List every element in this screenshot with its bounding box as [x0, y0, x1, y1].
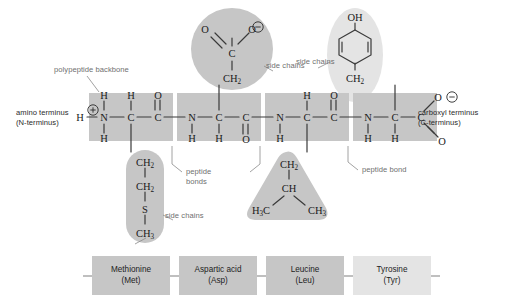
carboxyl-terminus-label-line1: carboxyl terminus [418, 108, 478, 117]
met-sulfur: S [142, 204, 148, 215]
residue-1-n-h-top: H [100, 90, 108, 101]
peptide-bonds-label-line2: bonds [186, 177, 207, 186]
residue-4-alpha-h: H [391, 133, 399, 144]
residue-2-n-h-bottom: H [188, 133, 196, 144]
residue-1-n-atom: N [100, 112, 108, 123]
asp-carboxyl-c: C [228, 48, 235, 59]
amino-terminus-label-line2: (N-terminus) [16, 118, 59, 127]
residue-4-n-h-bottom: H [364, 133, 372, 144]
residue-label-box-methionine: Methionine (Met) [92, 256, 170, 295]
residue-3-n-atom: N [276, 112, 284, 123]
residue-3-alpha-c: C [303, 112, 310, 123]
carboxyl-terminus-label-line2: (C-terminus) [418, 118, 461, 127]
residue-abbrev-tyrosine: (Tyr) [384, 276, 401, 287]
peptide-bond-label: peptide bond [362, 165, 407, 174]
n-terminus-h-atom: H [76, 112, 84, 123]
residue-abbrev-methionine: (Met) [121, 276, 140, 287]
residue-label-box-leucine: Leucine (Leu) [266, 256, 344, 295]
residue-4-n-atom: N [364, 112, 372, 123]
tyr-hydroxyl: OH [347, 12, 363, 23]
residue-label-box-tyrosine: Tyrosine (Tyr) [353, 256, 431, 295]
c-terminus-o-double: O [438, 136, 446, 147]
residue-abbrev-leucine: (Leu) [295, 276, 314, 287]
asp-o-single: O [248, 24, 256, 35]
residue-1-carbonyl-o: O [154, 90, 162, 101]
leu-ch: CH [282, 183, 297, 194]
asp-o-double: O [201, 24, 209, 35]
residue-3-n-h-bottom: H [276, 133, 284, 144]
residue-3-carbonyl-c: C [330, 112, 337, 123]
residue-abbrev-aspartic-acid: (Asp) [208, 276, 228, 287]
residue-name-tyrosine: Tyrosine [377, 265, 408, 276]
residue-1-alpha-h: H [127, 90, 135, 101]
residue-3-carbonyl-o: O [330, 90, 338, 101]
residue-label-box-aspartic-acid: Aspartic acid (Asp) [179, 256, 257, 295]
peptide-bonds-label-line1: peptide [186, 167, 211, 176]
residue-name-aspartic-acid: Aspartic acid [195, 265, 242, 276]
residue-name-leucine: Leucine [291, 265, 320, 276]
residue-2-carbonyl-o: O [242, 134, 250, 145]
residue-2-n-atom: N [188, 112, 196, 123]
residue-2-alpha-c: C [215, 112, 222, 123]
c-terminus-o-single: O [434, 92, 442, 103]
residue-name-methionine: Methionine [111, 265, 151, 276]
residue-2-carbonyl-c: C [242, 112, 249, 123]
residue-1-alpha-c: C [127, 112, 134, 123]
side-chains-label-right: side chains [296, 57, 335, 66]
amino-terminus-label-line1: amino terminus [16, 108, 69, 117]
residue-1-carbonyl-c: C [154, 112, 161, 123]
residue-2-alpha-h: H [215, 133, 223, 144]
side-chains-label-bottom: side chains [165, 211, 204, 220]
polypeptide-backbone-label: polypeptide backbone [54, 65, 129, 74]
residue-3-alpha-h: H [303, 90, 311, 101]
residue-4-alpha-c: C [391, 112, 398, 123]
residue-1-n-h-bottom: H [100, 133, 108, 144]
